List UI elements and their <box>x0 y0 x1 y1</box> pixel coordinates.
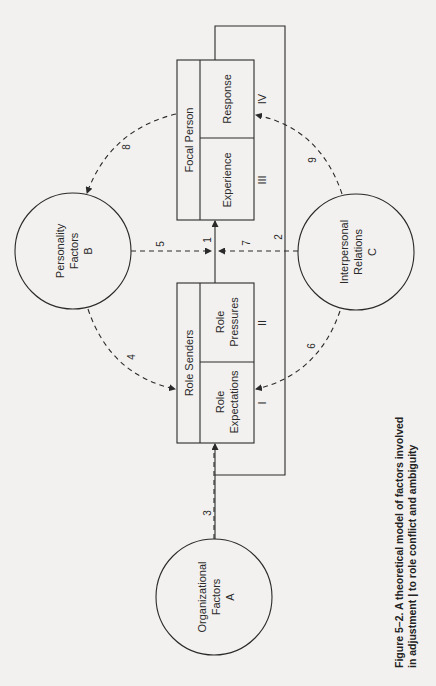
organizational-line2: Factors <box>210 578 222 615</box>
edge-label-6: 6 <box>306 343 317 349</box>
edge-8 <box>87 114 176 193</box>
personality-letter: B <box>82 247 94 254</box>
edge-label-3: 3 <box>202 510 213 516</box>
edge-label-7: 7 <box>241 240 252 246</box>
role-expectations-line2: Expectations <box>228 370 240 433</box>
caption-line1: Figure 5–2. A theoretical model of facto… <box>393 417 405 668</box>
edge-4 <box>88 309 175 389</box>
interpersonal-line1: Interpersonal <box>338 220 350 284</box>
organizational-letter: A <box>224 593 236 601</box>
edge-label-8: 8 <box>121 144 132 150</box>
roman-I: I <box>256 401 268 404</box>
role-expectations-line1: Role <box>214 391 226 414</box>
edge-label-9: 9 <box>307 157 318 163</box>
edge-label-5: 5 <box>155 241 166 247</box>
edge-label-4: 4 <box>126 354 137 360</box>
experience-label: Experience <box>221 152 233 207</box>
roman-II: II <box>256 320 268 326</box>
interpersonal-letter: C <box>366 248 378 256</box>
edge-label-2: 2 <box>273 234 284 240</box>
role-senders-title: Role Senders <box>183 329 195 396</box>
roman-III: III <box>256 175 268 184</box>
caption-line2: in adjustment | to role conflict and amb… <box>406 444 418 668</box>
personality-line1: Personality <box>54 223 66 278</box>
role-pressures-line2: Pressures <box>228 297 240 347</box>
edge-9 <box>256 115 342 194</box>
interpersonal-line2: Relations <box>352 229 364 275</box>
role-conflict-diagram: Focal Person Experience Response III IV … <box>0 0 436 686</box>
edge-6 <box>256 311 340 389</box>
personality-line2: Factors <box>68 232 80 269</box>
role-pressures-line1: Role <box>214 311 226 334</box>
edge-label-1: 1 <box>202 237 213 243</box>
focal-person-title: Focal Person <box>183 108 195 173</box>
roman-IV: IV <box>256 93 268 104</box>
organizational-line1: Organizational <box>196 562 208 633</box>
response-label: Response <box>221 74 233 124</box>
